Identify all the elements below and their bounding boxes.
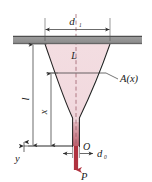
area-leader-line (106, 73, 118, 79)
tapered-bar-body (45, 44, 110, 147)
label-distance-x: x (38, 109, 49, 115)
label-bottom-diameter: d (97, 148, 103, 159)
support-bar-body (13, 36, 142, 44)
label-total-length: l (20, 97, 31, 100)
label-top-diameter: d (69, 15, 75, 27)
label-bottom-diameter-subscript: 0 (104, 154, 107, 160)
coordinate-axes (24, 142, 72, 152)
label-interior-length: L (70, 50, 77, 61)
dimension-distance-x (46, 73, 58, 145)
label-force: P (80, 171, 88, 182)
label-origin: O (83, 141, 90, 152)
label-y-axis: y (14, 153, 20, 164)
support-bar (13, 36, 142, 44)
figure-container: d 1 L A(x) l x O y d 0 P (0, 0, 152, 182)
label-top-diameter-subscript: 1 (79, 22, 82, 28)
tapered-bar-diagram: d 1 L A(x) l x O y d 0 P (0, 0, 152, 182)
label-area-function: A(x) (119, 73, 139, 85)
